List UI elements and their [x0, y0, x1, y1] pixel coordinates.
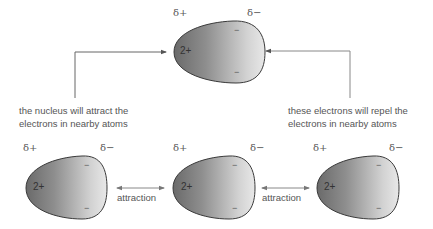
atom1-electron-sign-upper: −: [84, 160, 89, 170]
repel-caption-line2: electrons in nearby atoms: [288, 117, 408, 130]
atom1-nucleus-charge: 2+: [33, 181, 44, 192]
top-atom-nucleus-charge: 2+: [180, 45, 191, 56]
atom2-nucleus-charge: 2+: [181, 181, 192, 192]
attract-caption-line2: electrons in nearby atoms: [19, 117, 128, 130]
top-atom-delta-plus: δ+: [173, 7, 187, 18]
top-atom-delta-minus: δ−: [247, 7, 261, 18]
atom2-electron-sign-upper: −: [232, 160, 237, 170]
attract-caption-line1: the nucleus will attract the: [19, 104, 128, 117]
atom3-delta-minus: δ−: [389, 142, 403, 153]
atom1-delta-plus: δ+: [23, 142, 37, 153]
atom1-delta-minus: δ−: [100, 142, 114, 153]
repel-caption-line1: these electrons will repel the: [288, 104, 408, 117]
atom1-electron-sign-lower: −: [84, 203, 89, 213]
attract-caption: the nucleus will attract the electrons i…: [19, 104, 128, 130]
atom2-delta-minus: δ−: [250, 142, 264, 153]
attraction-label-1: attraction: [117, 191, 156, 204]
attraction-label-2: attraction: [262, 191, 301, 204]
top-atom-electron-sign-upper: −: [234, 25, 239, 35]
attract-callout-arrow: [75, 52, 166, 98]
atom3-electron-sign-upper: −: [376, 160, 381, 170]
atom3-electron-sign-lower: −: [376, 203, 381, 213]
top-atom-electron-sign-lower: −: [234, 67, 239, 77]
repel-caption: these electrons will repel the electrons…: [288, 104, 408, 130]
atom2-electron-sign-lower: −: [232, 203, 237, 213]
atom3-nucleus-charge: 2+: [324, 181, 335, 192]
repel-callout-arrow: [266, 51, 350, 98]
atom3-delta-plus: δ+: [313, 142, 327, 153]
atom2-delta-plus: δ+: [173, 142, 187, 153]
